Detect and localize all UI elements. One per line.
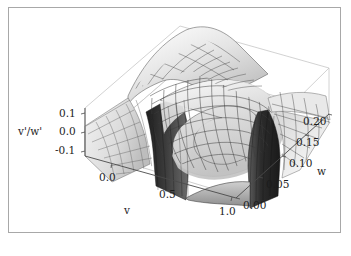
x-tick-0: 0.0 [99, 172, 116, 183]
y-tick-0: 0.00 [243, 200, 266, 211]
figure-page: 0.1 0.0 -0.1 v'/w' 0.0 0.5 1.0 v 0.00 0.… [0, 0, 351, 256]
z-tick-1: 0.0 [59, 126, 76, 137]
x-tick-1: 0.5 [159, 189, 176, 200]
y-tick-2: 0.10 [289, 158, 312, 169]
y-tick-3: 0.15 [296, 137, 319, 148]
surface-plot-canvas [0, 0, 351, 256]
z-tick-0: 0.1 [59, 108, 76, 119]
z-tick-2: -0.1 [55, 145, 75, 156]
x-tick-2: 1.0 [219, 206, 236, 217]
y-tick-4: 0.20 [303, 116, 326, 127]
x-axis-title: v [124, 205, 130, 216]
y-tick-1: 0.05 [266, 179, 289, 190]
y-axis-title: w [317, 166, 326, 177]
z-axis-title: v'/w' [18, 126, 42, 137]
